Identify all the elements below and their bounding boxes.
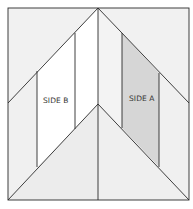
side-b-label: SIDE B <box>43 96 69 105</box>
side-a-label: SIDE A <box>129 94 155 103</box>
chevron-diagram: SIDE B SIDE A <box>0 0 193 209</box>
